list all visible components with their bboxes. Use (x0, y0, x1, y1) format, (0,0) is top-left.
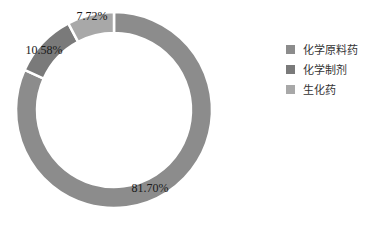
percentage-label: 7.72% (77, 9, 108, 23)
donut-chart: 81.70%10.58%7.72% (0, 0, 240, 228)
legend-item-biochemical-drug: 生化药 (286, 80, 358, 98)
legend-item-chemical-preparation: 化学制剂 (286, 60, 358, 78)
donut-slices (16, 12, 212, 208)
legend-label: 化学制剂 (303, 61, 347, 77)
legend-item-chemical-api: 化学原料药 (286, 40, 358, 58)
legend-label: 化学原料药 (303, 41, 358, 57)
legend-swatch (286, 45, 295, 54)
percentage-label: 10.58% (26, 43, 63, 57)
legend-label: 生化药 (303, 81, 336, 97)
legend-swatch (286, 85, 295, 94)
legend: 化学原料药 化学制剂 生化药 (286, 40, 358, 100)
percentage-label: 81.70% (132, 181, 169, 195)
legend-swatch (286, 65, 295, 74)
